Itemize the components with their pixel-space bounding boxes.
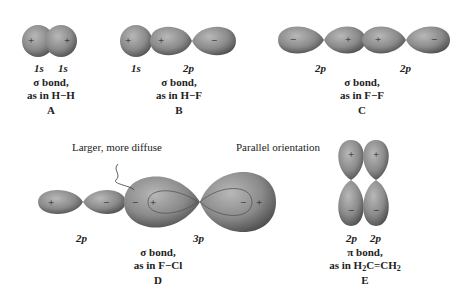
bond-example-a: as in H−H [22,89,80,102]
sign-minus: − [290,33,296,45]
annotation-larger-diffuse: Larger, more diffuse [72,141,162,153]
sign-minus: − [103,196,109,208]
bond-type-e: π bond, [330,246,400,259]
bond-type-c: σ bond, [333,76,391,89]
panel-letter-e: E [330,274,400,287]
panel-b-orbitals [120,25,236,57]
bond-example-c: as in F−F [333,89,391,102]
orbital-label: 3p [193,232,204,244]
panel-e-orbitals [338,140,389,226]
sign-plus: + [48,196,54,208]
orbital-label: 1s [34,62,44,74]
sign-plus: + [375,33,381,45]
sign-plus: + [345,33,351,45]
orbital-label: 1s [58,62,68,74]
bond-type-d: σ bond, [126,246,190,259]
sign-plus: + [256,196,262,208]
sign-plus: + [158,34,164,46]
bond-example-e: as in H2C=CH2 [320,259,410,275]
panel-letter-c: C [333,104,391,117]
panel-c-orbitals [278,27,450,54]
sign-minus: − [240,196,246,208]
sign-minus: − [211,34,217,46]
sign-plus: + [28,34,34,46]
bond-type-a: σ bond, [22,76,80,89]
orbital-label: 1s [131,62,141,74]
orbital-label: 2p [315,62,326,74]
sign-minus: − [373,204,379,216]
orbital-label: 2p [400,62,411,74]
sign-minus: − [348,204,354,216]
sign-plus: + [373,148,379,160]
orbital-label: 2p [346,232,357,244]
sign-plus: + [348,148,354,160]
sign-minus: − [431,33,437,45]
bond-example-b: as in H−F [150,89,208,102]
sign-plus: + [125,34,131,46]
orbital-label: 2p [76,232,87,244]
panel-letter-a: A [22,104,80,117]
orbital-label: 2p [183,62,194,74]
bond-type-b: σ bond, [150,76,208,89]
orbital-label: 2p [370,232,381,244]
panel-letter-d: D [126,274,190,287]
annotation-parallel-orientation: Parallel orientation [236,141,320,153]
bond-example-d: as in F−Cl [126,259,190,272]
sign-plus: + [64,34,70,46]
panel-letter-b: B [150,104,208,117]
sign-plus: + [150,196,156,208]
sign-minus: − [132,196,138,208]
